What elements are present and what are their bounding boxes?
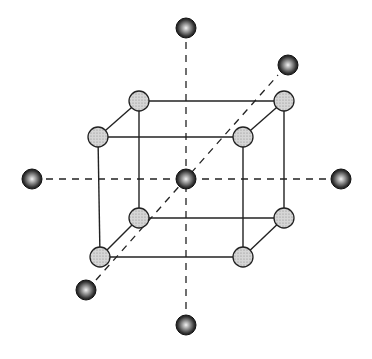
- atom-front-bottom-right: [233, 247, 253, 267]
- atom-front-top-left: [88, 127, 108, 147]
- atom-back-bottom-right: [274, 208, 294, 228]
- atom-front-bottom-left: [90, 247, 110, 267]
- body-centered-cube-diagram: [0, 0, 372, 359]
- atom-left: [22, 169, 42, 189]
- atom-center: [176, 169, 196, 189]
- atom-top: [176, 18, 196, 38]
- atom-lower-left: [76, 280, 96, 300]
- atom-back-top-right: [274, 91, 294, 111]
- atom-bottom: [176, 315, 196, 335]
- dark-atoms: [22, 18, 351, 335]
- atom-right: [331, 169, 351, 189]
- atom-back-top-left: [129, 91, 149, 111]
- diagram-canvas: [0, 0, 372, 359]
- atom-front-top-right: [233, 127, 253, 147]
- atom-back-bottom-left: [129, 208, 149, 228]
- atom-upper-right: [278, 55, 298, 75]
